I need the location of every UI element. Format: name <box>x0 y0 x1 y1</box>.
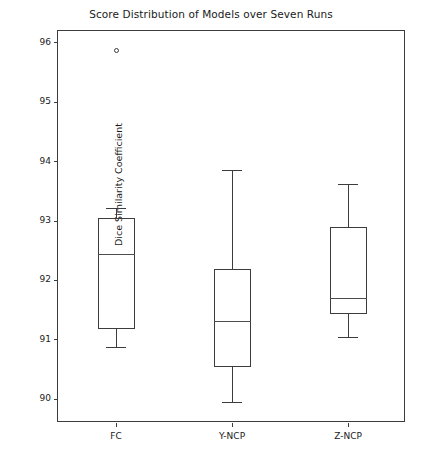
box-iqr <box>330 227 367 314</box>
cap-upper <box>222 170 241 171</box>
whisker-upper <box>232 170 233 269</box>
x-tick-label: Z-NCP <box>298 431 398 441</box>
y-tick-label: 91 <box>40 334 51 344</box>
x-tick-label: Y-NCP <box>182 431 282 441</box>
y-tick-mark <box>54 399 58 400</box>
whisker-lower <box>232 367 233 401</box>
y-tick-mark <box>54 280 58 281</box>
cap-upper <box>106 208 125 209</box>
median-line <box>214 321 251 322</box>
whisker-lower <box>348 314 349 337</box>
y-tick-label: 93 <box>40 215 51 225</box>
x-tick-mark <box>116 423 117 427</box>
chart-title: Score Distribution of Models over Seven … <box>0 8 422 20</box>
plot-axes: Dice Similarity Coefficient 909192939495… <box>57 30 405 422</box>
cap-lower <box>106 347 125 348</box>
y-tick-mark <box>54 221 58 222</box>
y-tick-mark <box>54 161 58 162</box>
x-tick-label: FC <box>66 431 166 441</box>
whisker-lower <box>116 329 117 347</box>
cap-lower <box>338 337 357 338</box>
x-tick-mark <box>348 423 349 427</box>
figure: Score Distribution of Models over Seven … <box>0 0 422 457</box>
outlier-point <box>114 48 119 53</box>
y-tick-mark <box>54 102 58 103</box>
y-tick-mark <box>54 339 58 340</box>
y-tick-label: 92 <box>40 274 51 284</box>
y-tick-label: 94 <box>40 156 51 166</box>
y-tick-mark <box>54 42 58 43</box>
median-line <box>98 254 135 255</box>
cap-lower <box>222 402 241 403</box>
cap-upper <box>338 184 357 185</box>
whisker-upper <box>348 184 349 227</box>
y-tick-label: 95 <box>40 96 51 106</box>
median-line <box>330 298 367 299</box>
x-tick-mark <box>232 423 233 427</box>
whisker-upper <box>116 208 117 218</box>
y-tick-label: 96 <box>40 37 51 47</box>
box-iqr <box>98 218 135 328</box>
y-tick-label: 90 <box>40 393 51 403</box>
box-iqr <box>214 269 251 368</box>
